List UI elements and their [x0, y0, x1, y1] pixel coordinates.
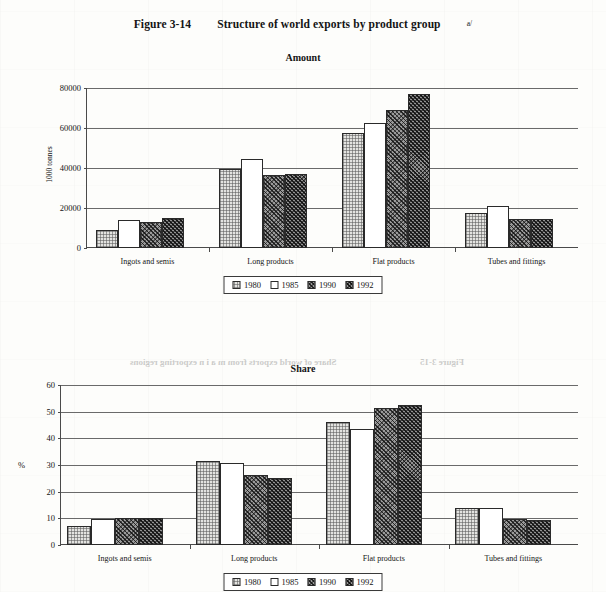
legend-label-1985: 1985 [282, 577, 299, 587]
bar-share-2-1985 [350, 429, 374, 545]
figure-title: Figure 3-14Structure of world exports by… [0, 18, 606, 30]
legend-share[interactable]: 1980198519901992 [224, 573, 383, 591]
legend-swatch-1980-icon [233, 578, 241, 586]
bar-amount-0-1992 [162, 218, 184, 248]
bar-group-share-1 [196, 385, 292, 545]
bar-amount-2-1992 [408, 94, 430, 248]
bar-share-1-1990 [244, 475, 268, 545]
ytick-label-share-40: 40 [0, 433, 55, 443]
bar-group-share-3 [455, 385, 551, 545]
legend-item-share-1985[interactable]: 1985 [270, 577, 299, 587]
figure-title-text: Structure of world exports by product gr… [217, 18, 440, 30]
bar-share-3-1980 [455, 508, 479, 545]
category-label-share-1: Long products [231, 554, 277, 563]
bar-group-amount-1 [219, 88, 307, 248]
legend-swatch-1990-icon [308, 578, 316, 586]
ytick-mark-share-20 [58, 492, 61, 493]
category-label-share-2: Flat products [363, 554, 405, 563]
bar-share-0-1990 [115, 518, 139, 545]
category-tick-amount-2 [332, 248, 333, 252]
legend-label-1985: 1985 [282, 280, 299, 290]
y-axis-title-share: % [18, 460, 25, 470]
legend-label-1992: 1992 [357, 280, 374, 290]
bar-group-amount-0 [96, 88, 184, 248]
ytick-mark-amount-60000 [84, 128, 87, 129]
bar-amount-1-1990 [263, 175, 285, 248]
ytick-mark-share-0 [58, 545, 61, 546]
legend-swatch-1992-icon [345, 281, 353, 289]
legend-item-amount-1985[interactable]: 1985 [270, 280, 299, 290]
category-tick-share-2 [319, 545, 320, 549]
legend-item-amount-1980[interactable]: 1980 [233, 280, 262, 290]
chart-amount: 0200004000060000800001000 tonnesIngots a… [0, 88, 606, 308]
chart-title-share: Share [0, 363, 606, 374]
category-tick-amount-3 [455, 248, 456, 252]
legend-item-share-1990[interactable]: 1990 [308, 577, 337, 587]
ytick-mark-share-40 [58, 438, 61, 439]
legend-item-share-1980[interactable]: 1980 [233, 577, 262, 587]
category-tick-amount-1 [209, 248, 210, 252]
category-label-amount-3: Tubes and fittings [488, 257, 546, 266]
legend-amount[interactable]: 1980198519901992 [224, 276, 383, 294]
legend-label-1992: 1992 [357, 577, 374, 587]
legend-label-1980: 1980 [244, 280, 261, 290]
bar-share-1-1992 [268, 478, 292, 545]
category-label-share-3: Tubes and fittings [485, 554, 543, 563]
bar-group-share-2 [326, 385, 422, 545]
ytick-label-share-50: 50 [0, 407, 55, 417]
bar-amount-3-1980 [465, 213, 487, 248]
ytick-label-share-10: 10 [0, 513, 55, 523]
ytick-mark-share-50 [58, 412, 61, 413]
legend-item-share-1992[interactable]: 1992 [345, 577, 374, 587]
chart-share: 0102030405060%Ingots and semisLong produ… [0, 385, 606, 592]
bar-share-2-1980 [326, 422, 350, 545]
ytick-label-share-20: 20 [0, 487, 55, 497]
legend-swatch-1992-icon [345, 578, 353, 586]
bar-share-0-1980 [67, 526, 91, 545]
legend-label-1990: 1990 [319, 577, 336, 587]
bar-amount-1-1980 [219, 169, 241, 248]
category-label-amount-0: Ingots and semis [121, 257, 175, 266]
figure-number: Figure 3-14 [134, 18, 191, 30]
legend-item-amount-1992[interactable]: 1992 [345, 280, 374, 290]
ytick-mark-share-60 [58, 385, 61, 386]
bar-amount-2-1990 [386, 110, 408, 248]
ytick-label-share-60: 60 [0, 380, 55, 390]
bar-amount-3-1992 [531, 219, 553, 248]
ytick-mark-amount-40000 [84, 168, 87, 169]
ytick-mark-amount-0 [84, 248, 87, 249]
bar-share-0-1992 [139, 518, 163, 545]
ytick-mark-share-10 [58, 518, 61, 519]
bar-amount-2-1980 [342, 133, 364, 248]
bar-amount-0-1980 [96, 230, 118, 248]
bar-share-1-1985 [220, 463, 244, 545]
bar-share-3-1990 [503, 519, 527, 545]
bar-group-share-0 [67, 385, 163, 545]
ytick-label-share-0: 0 [0, 540, 55, 550]
legend-swatch-1990-icon [308, 281, 316, 289]
legend-swatch-1985-icon [270, 578, 278, 586]
bar-share-2-1992 [398, 405, 422, 545]
bar-share-0-1985 [91, 519, 115, 545]
category-label-amount-1: Long products [247, 257, 293, 266]
bar-amount-1-1992 [285, 174, 307, 248]
category-tick-share-1 [190, 545, 191, 549]
y-axis-title-amount: 1000 tonnes [45, 130, 54, 200]
legend-label-1980: 1980 [244, 577, 261, 587]
legend-item-amount-1990[interactable]: 1990 [308, 280, 337, 290]
chart-title-amount: Amount [0, 52, 606, 63]
bar-amount-3-1990 [509, 219, 531, 248]
ytick-label-amount-20000: 20000 [21, 203, 81, 213]
ytick-label-amount-0: 0 [21, 243, 81, 253]
bar-share-1-1980 [196, 461, 220, 545]
legend-swatch-1985-icon [270, 281, 278, 289]
bar-amount-0-1990 [140, 222, 162, 248]
bar-group-amount-2 [342, 88, 430, 248]
ytick-label-amount-80000: 80000 [21, 83, 81, 93]
ytick-mark-amount-80000 [84, 88, 87, 89]
figure-footnote-marker: a/ [467, 19, 473, 28]
bar-group-amount-3 [465, 88, 553, 248]
bar-amount-3-1985 [487, 206, 509, 248]
bar-share-3-1985 [479, 508, 503, 545]
category-label-amount-2: Flat products [373, 257, 415, 266]
